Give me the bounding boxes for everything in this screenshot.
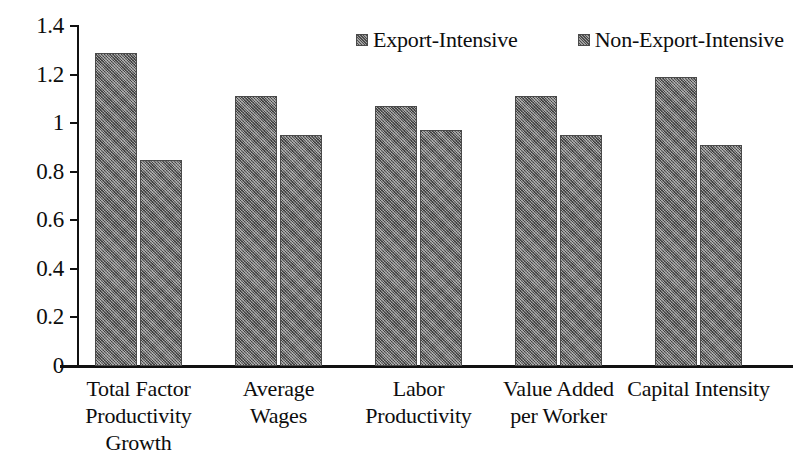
y-axis-tick-label: 1.4 (4, 14, 64, 37)
bar (140, 160, 182, 366)
y-axis-tick (70, 122, 77, 124)
legend-item: Non-Export-Intensive (578, 28, 784, 52)
legend-swatch-icon (356, 34, 368, 46)
x-axis-category-label: Labor Productivity (342, 375, 495, 429)
x-axis-category-label: Average Wages (202, 375, 355, 429)
legend-label: Non-Export-Intensive (595, 28, 784, 52)
legend-item: Export-Intensive (356, 28, 518, 52)
bar-group (655, 26, 742, 366)
x-axis-category-label: Value Added per Worker (482, 375, 635, 429)
legend-swatch-icon (578, 34, 590, 46)
bar (375, 106, 417, 366)
bars-layer (78, 26, 793, 366)
y-axis-tick-label: 0 (4, 354, 64, 377)
bar-chart: 00.20.40.60.811.21.4 Total Factor Produc… (0, 0, 803, 456)
y-axis-tick-label: 0.8 (4, 160, 64, 183)
x-axis-category-label: Total Factor Productivity Growth (62, 375, 215, 456)
bar (420, 130, 462, 366)
y-axis-tick-label: 0.4 (4, 257, 64, 280)
bar-group (95, 26, 182, 366)
bar (515, 96, 557, 366)
y-axis-tick (70, 219, 77, 221)
bar (700, 145, 742, 366)
y-axis-tick-label: 1 (4, 111, 64, 134)
bar (655, 77, 697, 366)
chart-legend: Export-IntensiveNon-Export-Intensive (356, 28, 784, 52)
y-axis-tick-label: 1.2 (4, 63, 64, 86)
y-axis-tick-label: 0.6 (4, 208, 64, 231)
y-axis-tick (70, 25, 77, 27)
bar-group (235, 26, 322, 366)
y-axis-tick (70, 365, 77, 367)
bar (560, 135, 602, 366)
y-axis-tick (70, 268, 77, 270)
x-axis-category-label: Capital Intensity (622, 375, 775, 402)
bar (235, 96, 277, 366)
y-axis-tick-label: 0.2 (4, 305, 64, 328)
bar-group (375, 26, 462, 366)
y-axis-tick (70, 316, 77, 318)
legend-label: Export-Intensive (373, 28, 518, 52)
y-axis-tick (70, 74, 77, 76)
y-axis-tick (70, 171, 77, 173)
bar-group (515, 26, 602, 366)
bar (95, 53, 137, 366)
bar (280, 135, 322, 366)
